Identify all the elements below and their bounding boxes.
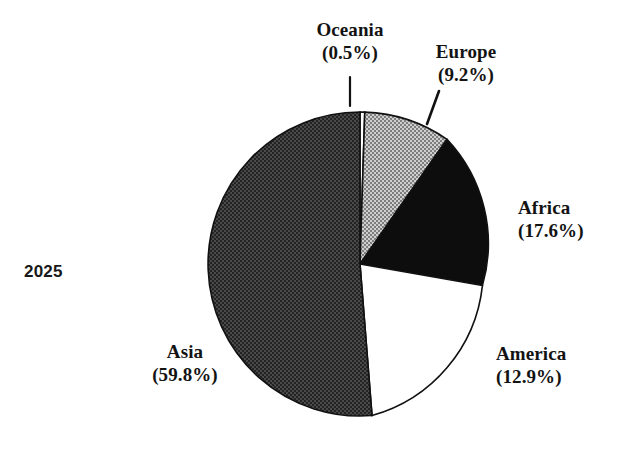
pie-label-asia: Asia (59.8%) [120,340,250,386]
pie-label-america-name: America [496,342,618,365]
pie-label-africa-percent: (17.6%) [518,219,618,242]
pie-label-asia-name: Asia [120,340,250,363]
pie-label-europe: Europe (9.2%) [404,40,528,86]
pie-label-europe-percent: (9.2%) [404,63,528,86]
pie-slices [208,112,488,416]
pie-slice-america[interactable] [360,264,482,416]
pie-label-europe-name: Europe [404,40,528,63]
pie-chart-figure: Oceania (0.5%) Europe (9.2%) Africa (17.… [0,0,618,454]
leader-line-europe [427,91,439,124]
year-label: 2025 [24,262,104,282]
pie-label-africa-name: Africa [518,196,618,219]
pie-label-africa: Africa (17.6%) [518,196,618,242]
pie-label-asia-percent: (59.8%) [120,363,250,386]
pie-label-oceania-name: Oceania [268,18,432,41]
pie-label-america-percent: (12.9%) [496,365,618,388]
pie-label-america: America (12.9%) [496,342,618,388]
